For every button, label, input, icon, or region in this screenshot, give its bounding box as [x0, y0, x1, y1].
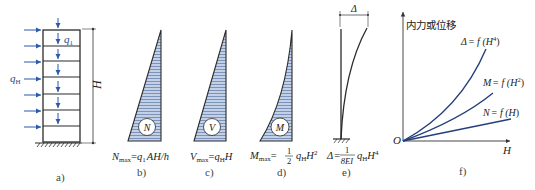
- caption-d: d): [277, 166, 287, 179]
- label-M: M= f (H2): [482, 76, 524, 89]
- caption-b: b): [137, 166, 147, 179]
- formula-c: Vmax=qHH: [190, 151, 234, 164]
- svg-text:2: 2: [287, 156, 291, 166]
- label-delta: Δ= f (H4): [460, 35, 500, 48]
- svg-text:8EI: 8EI: [341, 156, 354, 166]
- panel-b-axial-force: N Nmax=q1AH/h b): [111, 30, 169, 179]
- panel-d-bending-moment: M Mmax= 1 2 qHH2 d): [249, 30, 318, 179]
- frame-outline: [43, 30, 80, 142]
- horizontal-load-arrows: [24, 30, 41, 127]
- panel-c-shear-force: V Vmax=qHH c): [190, 30, 234, 179]
- delta-label: Δ: [350, 3, 357, 14]
- origin-label: O: [393, 134, 401, 146]
- x-axis-label: H: [502, 144, 512, 156]
- caption-f: f): [459, 165, 467, 178]
- M-label: M: [275, 122, 285, 133]
- ground-support: [35, 143, 82, 147]
- svg-text:Δ=: Δ=: [326, 150, 340, 161]
- svg-text:q1: q1: [64, 33, 74, 47]
- svg-text:1: 1: [287, 146, 291, 156]
- formula-b: Nmax=q1AH/h: [111, 151, 169, 164]
- y-axis-label: 内力或位移: [406, 19, 457, 31]
- structural-figure: H q1 qH a) N Nmax=q1AH/h b) V Vmax=qHH c…: [0, 0, 535, 190]
- svg-text:1: 1: [345, 145, 349, 155]
- height-dimension: H: [82, 28, 104, 144]
- curve-M: [403, 93, 493, 141]
- svg-text:qHH2: qHH2: [296, 149, 318, 163]
- curve-N: [403, 119, 511, 141]
- formula-e: Δ= 1 8EI qHH4: [326, 145, 379, 166]
- N-label: N: [143, 122, 152, 133]
- panel-f-growth-chart: 内力或位移 H O Δ= f (H4) M= f (H2) N= f (H) f…: [393, 12, 524, 178]
- caption-c: c): [205, 166, 214, 179]
- svg-text:qH: qH: [10, 72, 21, 86]
- svg-text:Mmax=: Mmax=: [249, 150, 277, 163]
- height-label: H: [90, 79, 104, 90]
- panel-a-frame: H q1 qH a): [10, 18, 104, 184]
- floor-lines: [43, 46, 80, 126]
- svg-text:qHH4: qHH4: [357, 149, 379, 163]
- label-N: N= f (H): [482, 107, 519, 119]
- deflected-column: [341, 28, 367, 139]
- caption-a: a): [56, 171, 65, 184]
- caption-e: e): [342, 166, 351, 179]
- formula-d: Mmax= 1 2 qHH2: [249, 146, 318, 166]
- panel-e-deflection: Δ Δ= 1 8EI qHH4 e): [326, 3, 379, 179]
